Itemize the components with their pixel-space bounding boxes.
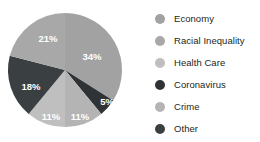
legend-item-label: Crime: [174, 96, 200, 118]
pie-slice-label: 18%: [21, 81, 41, 92]
legend-item-label: Racial Inequality: [174, 30, 245, 52]
legend-item[interactable]: Coronavirus: [155, 74, 260, 96]
pie-chart-plot-area: 34%5%11%11%18%21%: [0, 0, 134, 142]
legend-item[interactable]: Economy: [155, 8, 260, 30]
chart-legend: EconomyRacial InequalityHealth CareCoron…: [155, 8, 260, 136]
legend-item-label: Health Care: [174, 52, 225, 74]
pie-slice-label: 11%: [71, 111, 90, 122]
legend-item[interactable]: Other: [155, 118, 260, 140]
legend-swatch-icon: [155, 36, 165, 46]
pie-chart-figure: 34%5%11%11%18%21% EconomyRacial Inequali…: [0, 0, 260, 142]
legend-swatch-icon: [155, 124, 165, 134]
legend-item-label: Coronavirus: [174, 74, 226, 96]
pie-slice-label: 21%: [38, 33, 58, 44]
legend-swatch-icon: [155, 14, 165, 24]
legend-swatch-icon: [155, 102, 165, 112]
legend-item-label: Economy: [174, 8, 214, 30]
legend-item[interactable]: Racial Inequality: [155, 30, 260, 52]
legend-swatch-icon: [155, 80, 165, 90]
legend-item[interactable]: Crime: [155, 96, 260, 118]
pie-slice-group: [8, 13, 122, 127]
legend-item-label: Other: [174, 118, 198, 140]
legend-swatch-icon: [155, 58, 165, 68]
pie-chart-svg: 34%5%11%11%18%21%: [0, 0, 134, 142]
pie-slice-label: 11%: [42, 111, 61, 122]
pie-slice-label: 5%: [100, 96, 114, 107]
legend-item[interactable]: Health Care: [155, 52, 260, 74]
pie-slice-label: 34%: [82, 51, 102, 62]
